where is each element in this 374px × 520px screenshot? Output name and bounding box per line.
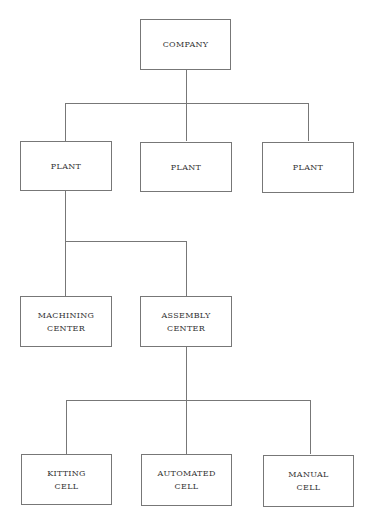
node-label-line-2: CELL [55, 480, 79, 493]
node-company: COMPANY [140, 19, 231, 70]
node-machining-center: MACHINING CENTER [20, 296, 112, 347]
node-label-line-2: CENTER [167, 322, 205, 335]
connector-cell-3 [310, 400, 311, 454]
node-plant-2: PLANT [140, 142, 232, 192]
node-label: PLANT [171, 161, 201, 174]
node-automated-cell: AUTOMATED CELL [141, 454, 232, 506]
node-label-line-1: AUTOMATED [157, 467, 215, 480]
connector-centers-bus [65, 241, 187, 242]
node-manual-cell: MANUAL CELL [263, 455, 354, 507]
node-label-line-1: KITTING [47, 467, 86, 480]
node-label-line-2: CELL [297, 481, 321, 494]
node-assembly-center: ASSEMBLY CENTER [140, 296, 232, 347]
node-label-line-1: ASSEMBLY [162, 309, 211, 322]
connector-cell-2 [186, 400, 187, 454]
connector-cells-bus [66, 400, 311, 401]
node-label-line-2: CENTER [47, 322, 85, 335]
node-label-line-2: CELL [175, 480, 199, 493]
connector-cell-1 [66, 400, 67, 454]
node-plant-1: PLANT [20, 141, 112, 191]
connector-plants-bus [65, 103, 309, 104]
node-label: PLANT [293, 161, 323, 174]
connector-assembly-down [186, 346, 187, 400]
node-label: PLANT [51, 160, 81, 173]
node-plant-3: PLANT [262, 142, 354, 193]
node-label-line-1: MACHINING [38, 309, 94, 322]
connector-plant-1-down [65, 190, 66, 296]
node-label-line-1: MANUAL [288, 468, 328, 481]
connector-assembly-center [186, 241, 187, 296]
node-label: COMPANY [163, 38, 209, 51]
connector-plant-2 [186, 103, 187, 141]
node-kitting-cell: KITTING CELL [21, 454, 112, 505]
connector-company-down [186, 69, 187, 103]
connector-plant-3 [308, 103, 309, 141]
connector-plant-1 [65, 103, 66, 141]
